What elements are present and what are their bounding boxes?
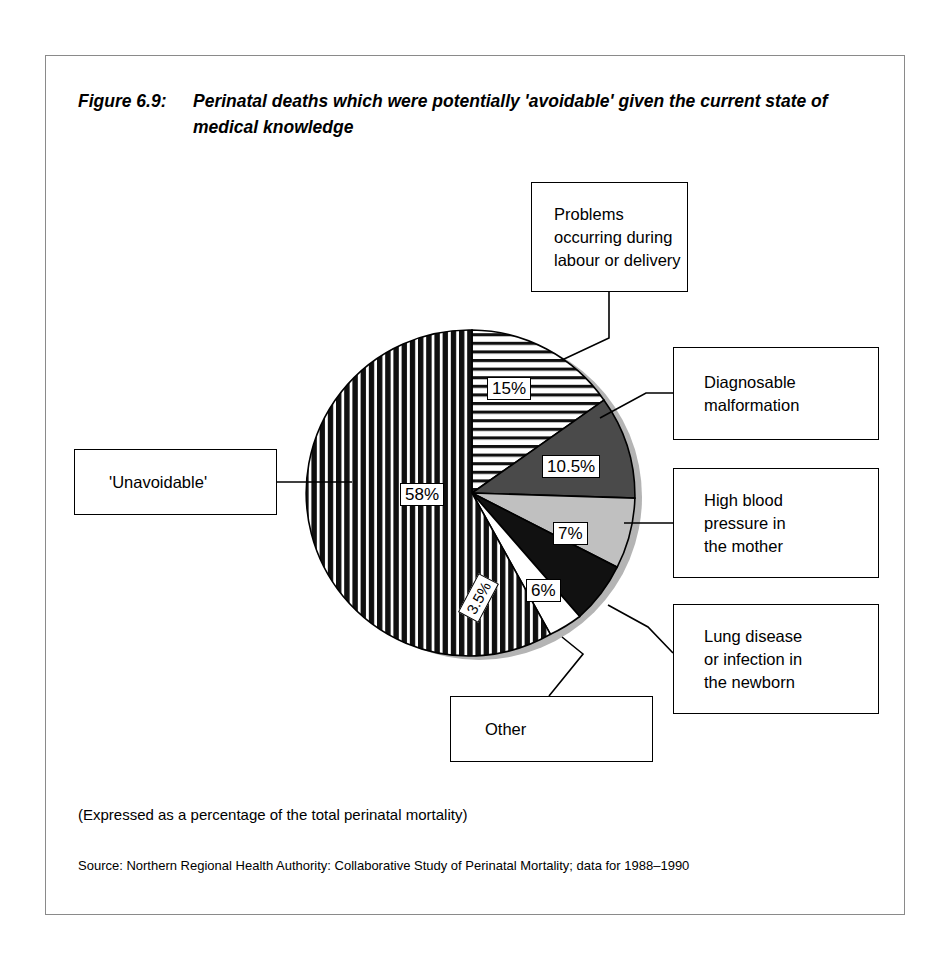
callout-diagnosable-text: Diagnosable malformation <box>674 371 799 417</box>
slice-label-blood-pressure: 7% <box>553 522 588 545</box>
footnote: (Expressed as a percentage of the total … <box>78 806 467 823</box>
callout-unavoidable[interactable]: 'Unavoidable' <box>74 449 277 515</box>
callout-other[interactable]: Other <box>450 696 653 762</box>
callout-other-text: Other <box>451 718 526 741</box>
slice-label-labour: 15% <box>487 377 531 400</box>
slice-label-malformation: 10.5% <box>542 455 600 478</box>
callout-high-blood-pressure[interactable]: High blood pressure in the mother <box>673 468 879 578</box>
pie-svg <box>295 316 655 676</box>
figure-label: Figure 6.9: <box>78 88 167 114</box>
callout-lung[interactable]: Lung disease or infection in the newborn <box>673 604 879 714</box>
slice-label-unavoidable: 58% <box>400 483 444 506</box>
callout-problems[interactable]: Problems occurring during labour or deli… <box>531 182 688 292</box>
callout-lung-text: Lung disease or infection in the newborn <box>674 625 802 694</box>
callout-high-blood-pressure-text: High blood pressure in the mother <box>674 489 786 558</box>
slice-label-lung: 6% <box>526 579 561 602</box>
figure-page: Figure 6.9: Perinatal deaths which were … <box>0 0 949 955</box>
pie-chart: 58% 15% 10.5% 7% 6% 3.5% <box>295 316 655 676</box>
callout-unavoidable-text: 'Unavoidable' <box>75 471 207 494</box>
callout-problems-text: Problems occurring during labour or deli… <box>532 203 681 272</box>
callout-diagnosable[interactable]: Diagnosable malformation <box>673 347 879 440</box>
source-note: Source: Northern Regional Health Authori… <box>78 858 689 873</box>
figure-title-text: Perinatal deaths which were potentially … <box>193 88 873 140</box>
